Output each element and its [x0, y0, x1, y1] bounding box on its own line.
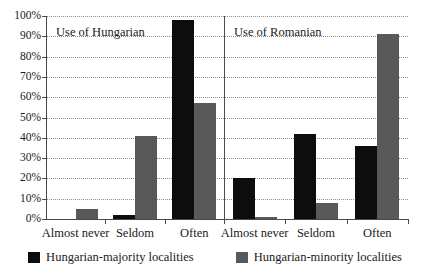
x-axis-tick-mark	[224, 219, 225, 224]
x-axis-tick-mark	[408, 219, 409, 224]
y-axis-tick-mark	[42, 16, 47, 17]
bar-chart-figure: 0%10%20%30%40%50%60%70%80%90%100% Almost…	[0, 0, 430, 275]
chart-legend: Hungarian-majority localities Hungarian-…	[0, 250, 430, 264]
y-axis-tick-mark	[42, 158, 47, 159]
bar	[135, 136, 157, 219]
bar	[76, 209, 98, 219]
legend-item-majority: Hungarian-majority localities	[28, 250, 194, 264]
legend-label-minority: Hungarian-minority localities	[254, 250, 402, 264]
bar	[194, 103, 216, 219]
y-axis-tick-label: 80%	[0, 51, 41, 63]
y-axis-tick-label: 40%	[0, 132, 41, 144]
y-axis-tick-label: 30%	[0, 152, 41, 164]
y-axis-tick-mark	[42, 118, 47, 119]
y-axis-tick-label: 90%	[0, 30, 41, 42]
panel-title-1: Use of Hungarian	[56, 25, 145, 40]
legend-label-majority: Hungarian-majority localities	[46, 250, 194, 264]
x-axis-tick-mark	[165, 219, 166, 224]
bar	[355, 146, 377, 219]
bar	[316, 203, 338, 219]
gridline	[46, 118, 408, 119]
y-axis-tick-label: 70%	[0, 71, 41, 83]
panel-title-2: Use of Romanian	[234, 25, 321, 40]
gridline	[46, 178, 408, 179]
y-axis-tick-label: 60%	[0, 91, 41, 103]
bar	[172, 20, 194, 219]
y-axis-tick-label: 10%	[0, 193, 41, 205]
legend-item-minority: Hungarian-minority localities	[236, 250, 402, 264]
gridline	[46, 16, 408, 17]
y-axis-tick-mark	[42, 199, 47, 200]
gridline	[46, 97, 408, 98]
x-axis-tick-mark	[285, 219, 286, 224]
y-axis-tick-mark	[42, 138, 47, 139]
bar	[294, 134, 316, 219]
plot-area	[46, 16, 408, 219]
bar	[377, 34, 399, 219]
x-axis-category-label: Often	[317, 226, 430, 241]
y-axis-tick-mark	[42, 77, 47, 78]
x-axis-line	[46, 219, 409, 220]
gridline	[46, 138, 408, 139]
gridline	[46, 158, 408, 159]
x-axis-tick-mark	[105, 219, 106, 224]
gridline	[46, 199, 408, 200]
y-axis-tick-mark	[42, 57, 47, 58]
bar	[233, 178, 255, 219]
y-axis-tick-mark	[42, 219, 47, 220]
gridline	[46, 57, 408, 58]
y-axis-tick-label: 0%	[0, 213, 41, 225]
legend-swatch-icon-minority	[236, 252, 248, 263]
y-axis-tick-mark	[42, 97, 47, 98]
y-axis-tick-mark	[42, 178, 47, 179]
x-axis-tick-mark	[347, 219, 348, 224]
y-axis-tick-label: 20%	[0, 172, 41, 184]
y-axis-tick-label: 100%	[0, 10, 41, 22]
gridline	[46, 77, 408, 78]
legend-swatch-icon-majority	[28, 252, 40, 263]
y-axis-tick-mark	[42, 36, 47, 37]
panel-divider-line	[224, 16, 225, 220]
y-axis-tick-label: 50%	[0, 112, 41, 124]
